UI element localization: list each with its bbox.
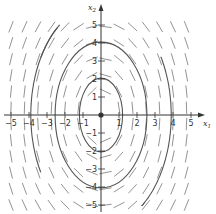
field-dash: [185, 151, 187, 162]
field-dash: [172, 70, 174, 81]
field-dash: [35, 22, 41, 32]
field-dash: [186, 86, 187, 97]
phase-portrait-plot: −5−4−3−2−112345−5−4−3−2−112345 x1 x2: [0, 0, 216, 214]
field-dash: [170, 200, 175, 210]
field-dash: [23, 70, 25, 81]
field-dash: [100, 26, 111, 27]
field-dash: [131, 86, 134, 97]
field-dash: [23, 151, 25, 162]
y-tick-label: 3: [92, 57, 97, 66]
field-dash: [184, 21, 188, 32]
field-dash: [185, 38, 189, 49]
x-tick-label: −2: [59, 119, 71, 128]
field-dash: [171, 22, 176, 32]
field-dash: [23, 38, 27, 49]
y-tick-label: −1: [85, 129, 97, 138]
x-tick-label: 5: [188, 119, 193, 128]
field-dash: [184, 200, 188, 211]
field-dash: [62, 168, 68, 178]
field-dash: [114, 24, 124, 29]
field-dash: [159, 86, 161, 97]
field-dash: [172, 134, 174, 145]
x-tick-label: 1: [116, 119, 121, 128]
field-dash: [24, 86, 25, 97]
field-dash: [37, 70, 40, 81]
y-tick-label: 2: [92, 75, 97, 84]
field-dash: [185, 70, 187, 81]
y-tick-label: −4: [85, 183, 97, 192]
field-dash: [159, 135, 161, 146]
field-dash: [48, 22, 55, 31]
field-dash: [62, 54, 68, 64]
field-dash: [49, 184, 55, 194]
field-dash: [35, 200, 41, 210]
x-tick-label: 4: [170, 119, 175, 128]
x-tick-label: 2: [134, 119, 139, 128]
field-dash: [144, 70, 148, 81]
field-dash: [76, 86, 80, 97]
field-dash: [115, 56, 124, 63]
field-dash: [115, 152, 123, 161]
field-dash: [185, 183, 189, 194]
field-dash: [74, 202, 84, 208]
field-dash: [100, 171, 111, 173]
field-dash: [157, 22, 163, 32]
field-dash: [9, 21, 13, 32]
field-dash: [10, 70, 12, 81]
x-tick-label: −5: [5, 119, 17, 128]
field-dash: [74, 24, 84, 30]
outer-trajectory-top: [41, 25, 60, 58]
field-dash: [171, 167, 174, 178]
field-dash: [50, 86, 52, 97]
field-dash: [74, 39, 83, 46]
axes: −5−4−3−2−112345−5−4−3−2−112345: [4, 4, 205, 212]
field-dash: [185, 167, 188, 178]
field-dash: [75, 71, 82, 80]
field-dash: [172, 86, 173, 97]
field-dash: [9, 183, 13, 194]
field-dash: [100, 138, 110, 143]
field-dash: [10, 167, 13, 178]
field-dash: [143, 167, 148, 177]
field-dash: [132, 118, 133, 129]
field-dash: [22, 183, 26, 194]
field-dash: [157, 200, 163, 210]
y-axis-label: x2: [88, 3, 97, 13]
equilibrium-point: [98, 112, 103, 117]
y-tick-label: 5: [92, 21, 97, 30]
field-dash: [9, 38, 12, 49]
field-dash: [171, 38, 175, 49]
field-dash: [74, 185, 83, 192]
y-tick-label: 4: [92, 39, 97, 48]
field-dash: [118, 102, 120, 113]
field-dash: [10, 86, 11, 97]
field-dash: [131, 135, 134, 146]
field-dash: [144, 151, 148, 162]
x-tick-label: 3: [152, 119, 157, 128]
field-dash: [50, 135, 52, 146]
field-dash: [36, 38, 41, 49]
field-dash: [23, 167, 26, 178]
field-dash: [186, 134, 187, 145]
field-dash: [10, 151, 12, 162]
y-tick-label: 1: [92, 93, 97, 102]
y-tick-label: −2: [85, 147, 97, 156]
outer-trajectory-bottom: [123, 203, 144, 214]
field-dash: [159, 102, 160, 114]
field-dash: [37, 135, 39, 146]
field-dash: [132, 102, 133, 113]
x-axis-label: x1: [203, 119, 211, 129]
field-dash: [9, 200, 13, 211]
field-dash: [22, 200, 27, 210]
field-dash: [10, 134, 11, 145]
field-dash: [143, 54, 148, 64]
field-dash: [158, 70, 161, 81]
field-dash: [100, 74, 111, 77]
field-dash: [129, 185, 137, 193]
field-dash: [61, 38, 68, 47]
field-dash: [38, 102, 39, 114]
field-dash: [157, 38, 162, 48]
axis-labels: x1 x2: [88, 3, 211, 129]
field-dash: [51, 102, 52, 114]
field-dash: [37, 86, 39, 97]
